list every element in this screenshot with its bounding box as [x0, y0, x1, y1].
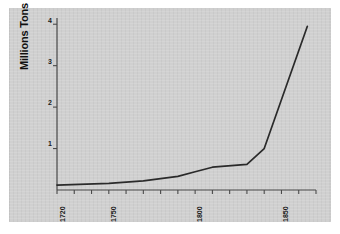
chart-figure: Millions Tons 4 3 2 1 1720 1750 1800 185…: [0, 0, 340, 234]
chart-plot-area: [0, 0, 340, 234]
data-series-line: [57, 26, 307, 185]
x-tick-marks: [57, 190, 316, 194]
axes-group: [57, 18, 316, 190]
